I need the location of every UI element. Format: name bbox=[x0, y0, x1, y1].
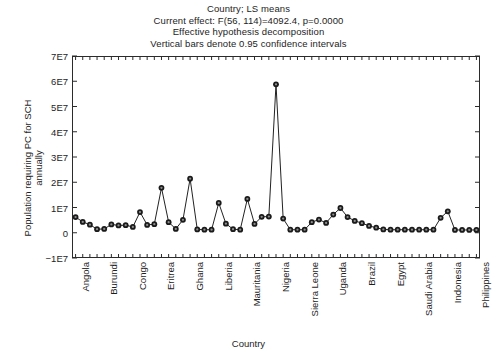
chart-root: Country; LS means Current effect: F(56, … bbox=[0, 0, 497, 360]
data-point-marker-core bbox=[167, 221, 169, 223]
data-point-marker-core bbox=[303, 229, 305, 231]
data-point-marker-core bbox=[253, 223, 255, 225]
y-axis-tick-label: 0 bbox=[2, 227, 68, 238]
chart-title-line-4: Vertical bars denote 0.95 confidence int… bbox=[0, 38, 497, 50]
x-axis-tick-label: Egypt bbox=[395, 262, 406, 286]
data-point-marker-core bbox=[146, 224, 148, 226]
data-point-marker-core bbox=[468, 229, 470, 231]
data-point-marker-core bbox=[425, 229, 427, 231]
data-point-marker-core bbox=[96, 228, 98, 230]
x-axis-tick-label: Mauritania bbox=[251, 262, 262, 306]
data-point-marker-core bbox=[454, 229, 456, 231]
data-point-marker-core bbox=[311, 221, 313, 223]
data-point-marker-core bbox=[153, 223, 155, 225]
y-axis-tick-label: 1E7 bbox=[2, 202, 68, 213]
data-point-marker-core bbox=[89, 224, 91, 226]
data-point-marker-core bbox=[218, 202, 220, 204]
x-axis-tick-label: Philippines bbox=[480, 262, 491, 308]
chart-title-line-1: Country; LS means bbox=[0, 3, 497, 15]
data-point-marker-core bbox=[375, 227, 377, 229]
y-axis-tick-label: 3E7 bbox=[2, 152, 68, 163]
data-point-marker-core bbox=[261, 216, 263, 218]
x-axis-tick-label: Angola bbox=[80, 262, 91, 292]
x-axis-title: Country bbox=[0, 338, 497, 349]
data-point-marker-core bbox=[368, 225, 370, 227]
y-axis-tick-label: 2E7 bbox=[2, 177, 68, 188]
data-point-marker-core bbox=[275, 83, 277, 85]
data-point-marker-core bbox=[82, 221, 84, 223]
data-point-marker-core bbox=[296, 229, 298, 231]
y-axis-tick-label: 6E7 bbox=[2, 76, 68, 87]
data-point-marker-core bbox=[132, 226, 134, 228]
data-point-marker-core bbox=[325, 222, 327, 224]
x-axis-tick-label: Burundi bbox=[108, 262, 119, 295]
x-axis-tick-label: Brazil bbox=[366, 262, 377, 286]
data-point-marker-core bbox=[103, 228, 105, 230]
data-point-marker-core bbox=[117, 224, 119, 226]
data-point-marker-core bbox=[268, 215, 270, 217]
data-point-marker-core bbox=[389, 229, 391, 231]
data-point-marker-core bbox=[160, 187, 162, 189]
x-axis-tick-label: Liberia bbox=[223, 262, 234, 291]
series-line bbox=[76, 84, 477, 230]
data-point-marker-core bbox=[404, 229, 406, 231]
data-point-marker-core bbox=[439, 217, 441, 219]
data-point-marker-core bbox=[332, 213, 334, 215]
x-axis-tick-label: Indonesia bbox=[452, 262, 463, 303]
data-point-marker-core bbox=[447, 210, 449, 212]
y-axis-tick-label: 5E7 bbox=[2, 101, 68, 112]
data-point-marker-core bbox=[246, 198, 248, 200]
data-point-marker-core bbox=[74, 216, 76, 218]
data-point-marker-core bbox=[361, 222, 363, 224]
chart-title-line-2: Current effect: F(56, 114)=4092.4, p=0.0… bbox=[0, 15, 497, 27]
data-point-marker-core bbox=[382, 228, 384, 230]
x-axis-tick-label: Uganda bbox=[337, 262, 348, 295]
data-point-marker-core bbox=[225, 223, 227, 225]
x-axis-tick-label: Congo bbox=[137, 262, 148, 290]
data-point-marker-core bbox=[354, 220, 356, 222]
data-point-marker-core bbox=[346, 216, 348, 218]
data-point-marker-core bbox=[289, 229, 291, 231]
data-point-marker-core bbox=[196, 228, 198, 230]
data-point-marker-core bbox=[239, 229, 241, 231]
y-axis-tick-label: 4E7 bbox=[2, 126, 68, 137]
data-point-marker-core bbox=[418, 229, 420, 231]
data-point-marker-core bbox=[189, 178, 191, 180]
x-axis-tick-label: Sierra Leone bbox=[309, 262, 320, 316]
data-point-marker-core bbox=[203, 229, 205, 231]
data-point-marker-core bbox=[461, 229, 463, 231]
data-point-marker-core bbox=[475, 229, 477, 231]
data-point-marker-core bbox=[339, 207, 341, 209]
chart-title-line-3: Effective hypothesis decomposition bbox=[0, 26, 497, 38]
x-axis-tick-labels: AngolaBurundiCongoEritreaGhanaLiberiaMau… bbox=[0, 258, 497, 338]
x-axis-tick-label: Ghana bbox=[194, 262, 205, 291]
data-point-marker-core bbox=[182, 219, 184, 221]
data-point-marker-core bbox=[139, 211, 141, 213]
data-point-marker-core bbox=[397, 229, 399, 231]
y-axis-tick-label: 7E7 bbox=[2, 51, 68, 62]
x-axis-tick-label: Saudi Arabia bbox=[423, 262, 434, 316]
chart-title-block: Country; LS means Current effect: F(56, … bbox=[0, 3, 497, 49]
data-point-marker-core bbox=[318, 218, 320, 220]
data-point-marker-core bbox=[210, 229, 212, 231]
data-point-marker-core bbox=[432, 229, 434, 231]
data-point-marker-core bbox=[411, 229, 413, 231]
data-point-marker-core bbox=[110, 223, 112, 225]
data-point-marker-core bbox=[125, 224, 127, 226]
data-point-marker-core bbox=[232, 228, 234, 230]
x-axis-tick-label: Nigeria bbox=[280, 262, 291, 292]
plot-series-canvas bbox=[72, 56, 480, 258]
data-point-marker-core bbox=[175, 228, 177, 230]
data-point-marker-core bbox=[282, 217, 284, 219]
x-axis-tick-label: Eritrea bbox=[165, 262, 176, 290]
